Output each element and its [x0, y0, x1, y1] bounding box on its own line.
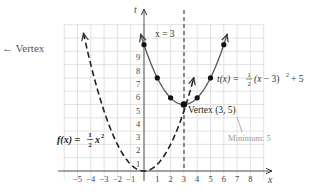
y-axis-label: t	[134, 4, 137, 15]
svg-text:2: 2	[101, 132, 104, 139]
curve-point	[195, 95, 200, 100]
x-tick-label: 1	[155, 174, 159, 184]
x-tick-label: −3	[100, 174, 109, 184]
svg-text:(x − 3): (x − 3)	[254, 74, 279, 85]
curve-point	[208, 75, 213, 80]
y-tick-label: 3	[136, 132, 140, 142]
curve-point	[141, 42, 146, 47]
x-tick-label: 8	[248, 174, 252, 184]
y-tick-label: 8	[136, 66, 140, 76]
x-tick-label: 6	[222, 174, 226, 184]
minimum-leader-line	[237, 117, 242, 132]
x-tick-label: 2	[168, 174, 172, 184]
y-tick-label: 9	[136, 52, 140, 62]
svg-text:1: 1	[247, 71, 250, 78]
svg-text:2: 2	[247, 80, 250, 87]
y-tick-label: 7	[136, 79, 140, 89]
x-tick-label: −5	[73, 174, 82, 184]
x-axis-label: x	[267, 174, 273, 185]
y-tick-label: 1	[136, 159, 140, 169]
y-tick-label: 5	[136, 106, 140, 116]
x-tick-label: −4	[86, 174, 96, 184]
y-tick-labels: 123456789	[136, 52, 141, 168]
y-tick-label: 2	[136, 145, 140, 155]
x-tick-labels: −5−4−3−2−112345678	[73, 174, 253, 184]
x-tick-label: 5	[208, 174, 212, 184]
x-tick-label: 3	[182, 174, 186, 184]
minimum-label: Minimum: 5	[228, 133, 271, 143]
parabola-graph: −5−4−3−2−112345678 123456789 x t x = 3 ←…	[0, 0, 318, 196]
vertex-point-label: Vertex (3, 5)	[188, 105, 236, 116]
svg-text:2: 2	[286, 72, 289, 78]
x-tick-label: −2	[113, 174, 122, 184]
t-function-label: t(x) = 1 2 (x − 3) 2 + 5	[217, 71, 304, 87]
svg-text:x: x	[94, 134, 100, 145]
svg-text:2: 2	[88, 141, 92, 149]
curve-point	[221, 42, 226, 47]
axis-of-symmetry-label: x = 3	[155, 29, 175, 39]
y-tick-label: 4	[136, 119, 141, 129]
curve-point	[155, 75, 160, 80]
y-tick-label: 6	[136, 92, 140, 102]
svg-text:1: 1	[88, 131, 92, 139]
curve-point	[181, 101, 187, 107]
svg-text:f(x) =: f(x) =	[57, 134, 80, 146]
svg-text:t(x) =: t(x) =	[217, 74, 239, 85]
vertex-arrow-label: ← Vertex	[2, 42, 45, 54]
x-tick-label: −1	[126, 174, 135, 184]
curve-point	[168, 95, 173, 100]
x-tick-label: 7	[235, 174, 239, 184]
x-tick-label: 4	[195, 174, 200, 184]
svg-text:+ 5: + 5	[291, 74, 304, 84]
